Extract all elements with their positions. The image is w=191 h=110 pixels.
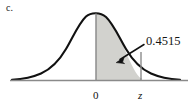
distribution-chart-svg: 0.4515 0 z [0, 0, 191, 110]
normal-distribution-figure: c. 0.4515 0 z [0, 0, 191, 110]
shaded-area-region [96, 14, 141, 81]
area-value-label: 0.4515 [146, 34, 180, 48]
axis-label-mean: 0 [93, 89, 99, 101]
axis-label-zscore: z [137, 89, 143, 101]
